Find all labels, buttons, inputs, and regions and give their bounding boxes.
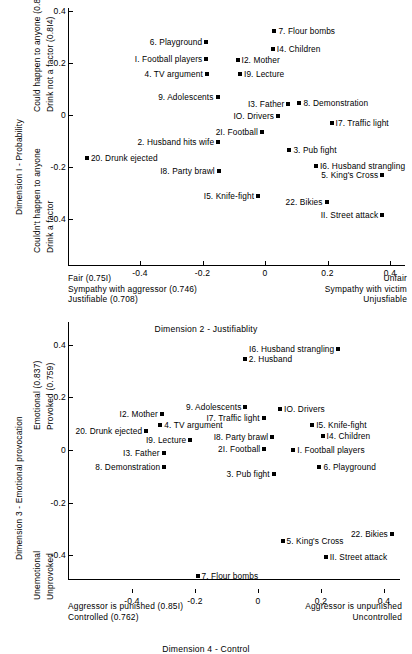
data-point-label: 20. Drunk ejected [91, 154, 158, 162]
data-point-label: 22. Bikies [286, 198, 323, 206]
y-tick [68, 503, 73, 504]
data-point-label: 8. Demonstration [303, 99, 368, 107]
data-point-label: I7. Traffic light [336, 119, 389, 127]
x-tick [195, 589, 196, 593]
data-point-marker [85, 156, 89, 160]
x-tick-label: 0 [251, 268, 279, 278]
data-point-marker [243, 405, 247, 409]
y-tick-label: 0 [44, 445, 66, 455]
x-tick-label: 0.2 [314, 268, 342, 278]
data-point-marker [271, 47, 275, 51]
data-point-marker [314, 164, 318, 168]
data-point-marker [217, 169, 221, 173]
data-point-label: 2. Husband hits wife [137, 138, 214, 146]
x-axis-line [68, 265, 405, 266]
data-point-marker [291, 448, 295, 452]
data-point-label: I2. Mother [120, 410, 158, 418]
data-point-marker [204, 57, 208, 61]
data-point-marker [286, 102, 290, 106]
x-tick [321, 589, 322, 593]
data-point-label: 3. Pub fight [293, 146, 336, 154]
x-tick [132, 589, 133, 593]
data-point-marker [380, 213, 384, 217]
y-tick [68, 63, 73, 64]
data-point-label: 9. Adolescents [158, 93, 213, 101]
data-point-label: II. Street attack [330, 553, 388, 561]
data-point-marker [236, 58, 240, 62]
y-axis-bottom-annotation: Unemotional [32, 551, 42, 600]
data-point-label: 4. TV argument [164, 421, 222, 429]
data-point-label: 2I. Football [218, 445, 260, 453]
data-point-label: 2. Husband [249, 355, 292, 363]
data-point-marker [162, 465, 166, 469]
data-point-marker [144, 429, 148, 433]
y-axis-top-annotation: Drink not a factor (0.8I4) [45, 16, 55, 112]
y-tick-label: -0.2 [44, 498, 66, 508]
data-point-label: I3. Father [248, 100, 285, 108]
data-point-marker [216, 140, 220, 144]
data-point-marker [238, 72, 242, 76]
x-axis-right-annotation: Sympathy with victim [325, 284, 407, 294]
data-point-label: 5. King's Cross [287, 537, 344, 545]
x-axis-right-annotation: Uncontrolled [353, 612, 402, 622]
data-point-marker [336, 347, 340, 351]
y-axis-top-annotation: Could happen to anyone (0.837) [32, 0, 42, 112]
x-tick [328, 261, 329, 265]
y-tick [68, 345, 73, 346]
x-axis-title: Dimension 4 - Control [0, 644, 412, 654]
x-tick [384, 589, 385, 593]
data-point-label: I5. Knife-fight [204, 192, 254, 200]
data-point-marker [270, 435, 274, 439]
data-point-marker [205, 72, 209, 76]
y-tick-label: 0.4 [44, 6, 66, 16]
y-axis-bottom-annotation: Unprovoked [45, 553, 55, 600]
data-point-label: II. Street attack [321, 211, 379, 219]
data-point-marker [287, 148, 291, 152]
data-point-label: IO. Drivers [233, 112, 274, 120]
chart-dimension3-vs-dimension4: 0.40.20-0.2-0.4-0.4-0.200.20.4I6. Husban… [0, 322, 412, 650]
y-tick [68, 397, 73, 398]
y-axis-top-annotation: Provoked (0.759) [45, 363, 55, 430]
x-tick [265, 261, 266, 265]
x-axis-left-annotation: Aggressor is punished (0.85I) [68, 601, 183, 611]
data-point-marker [262, 416, 266, 420]
y-axis-title: Dimension 3 - Emotional provocation [14, 416, 24, 560]
x-axis-left-annotation: Sympathy with aggressor (0.746) [68, 284, 197, 294]
data-point-marker [162, 451, 166, 455]
y-tick [68, 450, 73, 451]
data-point-label: I6. Husband strangling [320, 162, 405, 170]
x-axis-right-annotation: Unjusfiable [363, 294, 407, 304]
data-point-label: 2I. Football [216, 128, 258, 136]
data-point-marker [204, 40, 208, 44]
y-tick [68, 219, 73, 220]
data-point-label: I9. Lecture [146, 436, 186, 444]
data-point-label: 7. Flour bombs [278, 27, 335, 35]
y-tick [68, 115, 73, 116]
data-point-label: 8. Demonstration [95, 463, 160, 471]
data-point-marker [188, 438, 192, 442]
data-point-marker [196, 574, 200, 578]
y-axis-bottom-annotation: Couldn't happen to anyone [32, 148, 42, 253]
data-point-label: 4. TV argument [144, 70, 202, 78]
data-point-label: I. Football players [135, 55, 202, 63]
y-tick [68, 555, 73, 556]
data-point-label: I4. Children [327, 432, 371, 440]
data-point-marker [317, 465, 321, 469]
chart-dimension1-vs-dimension2: 0.40.20-0.2-0.4-0.4-0.200.20.47. Flour b… [0, 0, 412, 320]
y-axis-line [68, 8, 69, 265]
x-axis-right-annotation: Unfair [383, 273, 407, 283]
data-point-marker [297, 101, 301, 105]
data-point-marker [216, 95, 220, 99]
data-point-label: I. Football players [297, 446, 364, 454]
data-point-marker [324, 555, 328, 559]
data-point-label: I6. Husband strangling [249, 345, 334, 353]
data-point-marker [278, 407, 282, 411]
data-point-label: I3. Father [123, 449, 160, 457]
data-point-marker [330, 121, 334, 125]
data-point-marker [276, 114, 280, 118]
data-point-label: 5. King's Cross [321, 171, 378, 179]
data-point-marker [243, 357, 247, 361]
y-tick-label: -0.2 [44, 162, 66, 172]
data-point-label: 7. Flour bombs [202, 572, 259, 580]
data-point-label: I2. Mother [242, 56, 280, 64]
